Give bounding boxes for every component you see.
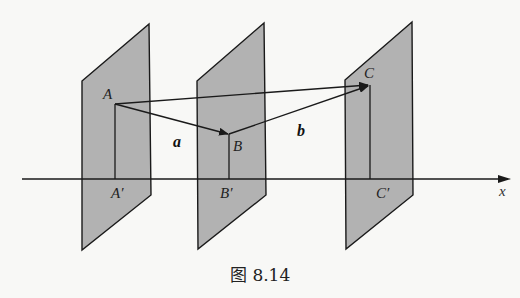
- label-vector-b: b: [297, 122, 305, 139]
- x-axis-arrowhead-icon: [498, 175, 511, 183]
- label-point-c: C: [364, 65, 375, 81]
- label-point-a-proj: A′: [110, 185, 124, 201]
- label-x-axis: x: [498, 183, 506, 199]
- label-point-a: A: [102, 86, 113, 102]
- figure-caption: 图 8.14: [230, 265, 290, 285]
- figure-canvas: A B C A′ B′ C′ a b x 图 8.14: [0, 0, 520, 298]
- label-point-b: B: [233, 138, 242, 154]
- label-point-c-proj: C′: [376, 185, 390, 201]
- label-vector-a: a: [173, 133, 181, 150]
- diagram-svg: A B C A′ B′ C′ a b x 图 8.14: [0, 0, 520, 298]
- plane-b: [197, 23, 266, 249]
- plane-c: [345, 22, 413, 249]
- label-point-b-proj: B′: [220, 185, 233, 201]
- plane-a: [82, 24, 151, 250]
